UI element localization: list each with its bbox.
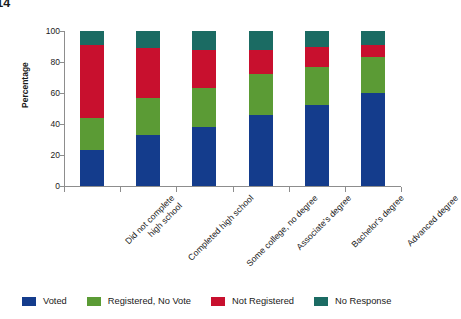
x-axis-tick-mark bbox=[289, 187, 290, 192]
x-axis-tick-label-line: Completed high school bbox=[186, 193, 256, 263]
x-axis-tick-mark bbox=[233, 187, 234, 192]
legend-item[interactable]: Registered, No Vote bbox=[87, 296, 191, 306]
legend-item[interactable]: Not Registered bbox=[211, 296, 294, 306]
x-axis-tick-label: Advanced degree bbox=[405, 193, 461, 249]
x-axis-tick-mark bbox=[345, 187, 346, 192]
x-axis-tick-mark bbox=[401, 187, 402, 192]
legend-item-label: No Response bbox=[335, 296, 391, 306]
y-axis-tick-mark bbox=[59, 93, 64, 94]
legend-swatch-registered-no-vote bbox=[87, 297, 101, 306]
x-axis-tick-mark bbox=[176, 187, 177, 192]
x-axis-tick-label: Did not completehigh school bbox=[123, 193, 184, 254]
chart-legend: VotedRegistered, No VoteNot RegisteredNo… bbox=[22, 296, 411, 306]
y-axis-tick-mark bbox=[59, 155, 64, 156]
legend-swatch-not-registered bbox=[211, 297, 225, 306]
x-axis-tick-label-line: Bachelor's degree bbox=[349, 193, 406, 250]
x-axis-tick-label: Completed high school bbox=[186, 193, 256, 263]
x-axis-tick-mark bbox=[64, 187, 65, 192]
legend-swatch-voted bbox=[22, 297, 36, 306]
x-axis-tick-mark bbox=[120, 187, 121, 192]
legend-item[interactable]: No Response bbox=[314, 296, 391, 306]
y-axis-tick-mark bbox=[59, 124, 64, 125]
legend-item-label: Registered, No Vote bbox=[108, 296, 191, 306]
y-axis-tick-mark bbox=[59, 31, 64, 32]
x-axis-tick-label-line: Advanced degree bbox=[405, 193, 461, 249]
legend-swatch-no-response bbox=[314, 297, 328, 306]
y-axis-tick-mark bbox=[59, 62, 64, 63]
legend-item-label: Voted bbox=[43, 296, 67, 306]
legend-item-label: Not Registered bbox=[232, 296, 294, 306]
x-axis-tick-label: Bachelor's degree bbox=[349, 193, 406, 250]
legend-item[interactable]: Voted bbox=[22, 296, 67, 306]
